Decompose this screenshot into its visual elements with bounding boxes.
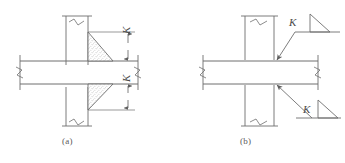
panel-caption-b: (b) <box>240 136 251 146</box>
break-symbol-column-bottom <box>69 119 84 125</box>
weld-size-label-k-b-upper: K <box>289 16 296 28</box>
dimension-label-k-a-lower: K <box>120 75 132 82</box>
break-symbol-beam-right <box>314 67 321 78</box>
panel-caption-a: (a) <box>62 136 73 146</box>
break-symbol-column-bottom <box>250 119 267 125</box>
break-symbol-beam-right <box>134 67 141 78</box>
break-symbol-column-top <box>250 19 267 25</box>
break-symbol-column-top <box>69 19 84 25</box>
panel-a-weld-lower <box>88 84 113 110</box>
panel-a-weld-upper <box>88 32 113 61</box>
break-symbol-beam-left <box>16 67 23 78</box>
panel-a-beam <box>16 55 141 90</box>
fillet-triangle-lower <box>318 100 338 118</box>
leader-line-upper <box>277 32 295 60</box>
dimension-label-k-a-upper: K <box>120 27 132 34</box>
panel-b <box>199 14 341 126</box>
fillet-triangle-upper <box>310 14 330 32</box>
panel-a-column <box>62 16 92 126</box>
weld-symbol-upper <box>277 14 340 60</box>
weld-size-label-k-b-lower: K <box>303 103 310 115</box>
panel-b-column <box>241 16 278 126</box>
break-symbol-beam-left <box>199 67 206 78</box>
panel-b-beam <box>199 55 321 90</box>
